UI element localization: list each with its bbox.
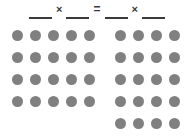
array-dot bbox=[48, 74, 59, 85]
array-dot bbox=[30, 52, 41, 63]
array-dot bbox=[169, 30, 180, 41]
array-dot bbox=[84, 52, 95, 63]
left-array bbox=[12, 24, 95, 112]
dot-row bbox=[12, 90, 95, 112]
array-dot bbox=[151, 118, 162, 129]
array-dot bbox=[30, 30, 41, 41]
blank-field-2[interactable] bbox=[66, 6, 89, 19]
equals-symbol: = bbox=[93, 3, 100, 15]
array-dot bbox=[66, 96, 77, 107]
dot-row bbox=[115, 90, 180, 112]
array-dot bbox=[133, 52, 144, 63]
dot-row bbox=[115, 68, 180, 90]
array-dot bbox=[151, 74, 162, 85]
array-dot bbox=[48, 96, 59, 107]
worksheet: × = × bbox=[0, 0, 194, 136]
right-array bbox=[115, 24, 180, 134]
array-dot bbox=[133, 96, 144, 107]
blank-field-4[interactable] bbox=[142, 6, 165, 19]
array-dot bbox=[66, 52, 77, 63]
array-dot bbox=[133, 30, 144, 41]
array-dot bbox=[48, 30, 59, 41]
array-dot bbox=[133, 118, 144, 129]
dot-row bbox=[115, 46, 180, 68]
array-dot bbox=[12, 30, 23, 41]
array-dot bbox=[84, 30, 95, 41]
blank-field-3[interactable] bbox=[105, 6, 128, 19]
multiplication-symbol-1: × bbox=[56, 4, 62, 15]
array-dot bbox=[115, 96, 126, 107]
array-dot bbox=[151, 96, 162, 107]
dot-row bbox=[12, 24, 95, 46]
array-dot bbox=[12, 96, 23, 107]
equation-row: × = × bbox=[0, 0, 194, 24]
array-dot bbox=[151, 52, 162, 63]
blank-field-1[interactable] bbox=[29, 6, 52, 19]
array-dot bbox=[115, 74, 126, 85]
array-dot bbox=[169, 74, 180, 85]
array-dot bbox=[66, 30, 77, 41]
multiplication-symbol-2: × bbox=[132, 4, 138, 15]
array-dot bbox=[30, 96, 41, 107]
dot-row bbox=[12, 46, 95, 68]
array-dot bbox=[169, 118, 180, 129]
dot-row bbox=[12, 68, 95, 90]
array-dot bbox=[48, 52, 59, 63]
array-dot bbox=[151, 30, 162, 41]
array-dot bbox=[133, 74, 144, 85]
array-dot bbox=[115, 30, 126, 41]
array-dot bbox=[66, 74, 77, 85]
dot-arrays bbox=[0, 24, 194, 136]
array-dot bbox=[12, 74, 23, 85]
array-dot bbox=[169, 52, 180, 63]
array-dot bbox=[30, 74, 41, 85]
array-dot bbox=[12, 52, 23, 63]
array-dot bbox=[115, 118, 126, 129]
array-dot bbox=[84, 96, 95, 107]
dot-row bbox=[115, 24, 180, 46]
dot-row bbox=[115, 112, 180, 134]
array-dot bbox=[169, 96, 180, 107]
array-dot bbox=[115, 52, 126, 63]
array-dot bbox=[84, 74, 95, 85]
